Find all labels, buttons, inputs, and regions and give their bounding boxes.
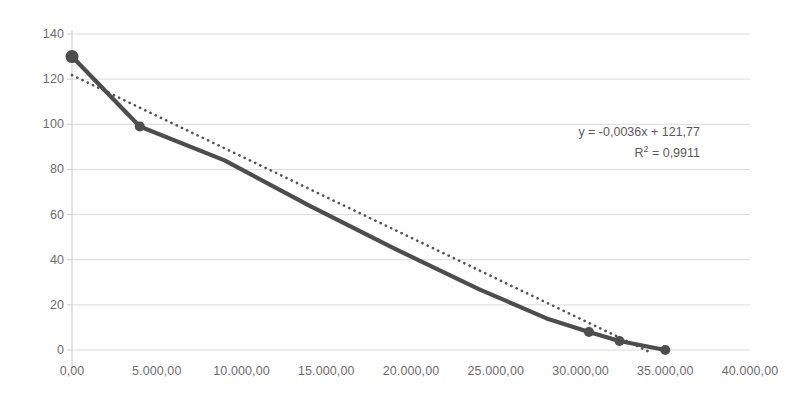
x-axis-tick-label: 20.000,00 bbox=[383, 364, 440, 378]
x-axis-tick-label: 0,00 bbox=[60, 364, 85, 378]
x-axis-tick-label: 15.000,00 bbox=[298, 364, 355, 378]
chart-canvas bbox=[0, 0, 804, 405]
gridlines bbox=[72, 34, 750, 350]
data-series-line bbox=[72, 57, 665, 350]
x-axis-tick-label: 5.000,00 bbox=[132, 364, 181, 378]
y-axis-tick-label: 120 bbox=[18, 72, 64, 86]
x-axis-tick-label: 25.000,00 bbox=[467, 364, 524, 378]
y-axis-tick-label: 100 bbox=[18, 117, 64, 131]
y-axis-tick-label: 40 bbox=[18, 253, 64, 267]
trendline-series bbox=[72, 75, 648, 351]
trendline-equation-annotation: y = -0,0036x + 121,77 R2 = 0,9911 bbox=[578, 124, 700, 162]
data-series-markers bbox=[66, 50, 671, 355]
y-axis-tick-label: 20 bbox=[18, 298, 64, 312]
x-axis-tick-label: 35.000,00 bbox=[637, 364, 694, 378]
trendline-r-squared-text: R2 = 0,9911 bbox=[578, 141, 700, 162]
x-axis-tick-label: 40.000,00 bbox=[722, 364, 779, 378]
chart-container: 020406080100120140 0,005.000,0010.000,00… bbox=[0, 0, 804, 405]
trendline-equation-text: y = -0,0036x + 121,77 bbox=[578, 124, 700, 141]
x-axis-tick-label: 30.000,00 bbox=[552, 364, 609, 378]
y-axis-tick-label: 0 bbox=[18, 343, 64, 357]
y-axis-tick-label: 80 bbox=[18, 162, 64, 176]
y-axis-ticks bbox=[67, 34, 72, 350]
r-squared-value: = 0,9911 bbox=[648, 146, 700, 160]
y-axis-tick-label: 60 bbox=[18, 208, 64, 222]
x-axis-tick-label: 10.000,00 bbox=[213, 364, 270, 378]
y-axis-tick-label: 140 bbox=[18, 27, 64, 41]
